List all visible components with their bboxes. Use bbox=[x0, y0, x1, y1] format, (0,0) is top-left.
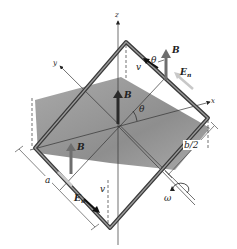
y-axis-label: y bbox=[52, 59, 58, 67]
en-label-bottom: En bbox=[73, 193, 85, 204]
b-label-center: B bbox=[123, 90, 132, 100]
theta-arc-top bbox=[158, 60, 164, 62]
dimension-b-half-label: b/2 bbox=[184, 140, 199, 150]
rotating-loop-diagram: z x y B θ B θ v En B v bbox=[0, 0, 237, 249]
v-label-top: v bbox=[136, 62, 141, 72]
x-axis-label: x bbox=[211, 97, 215, 105]
en-label-top: En bbox=[179, 67, 191, 78]
dimension-a-label: a bbox=[45, 175, 50, 185]
b-label-bottom-left: B bbox=[76, 142, 85, 152]
theta-label-center: θ bbox=[139, 104, 145, 114]
b-label-top: B bbox=[171, 45, 180, 55]
v-label-bottom: v bbox=[100, 184, 105, 194]
omega-label: ω bbox=[164, 193, 172, 203]
z-axis-label: z bbox=[114, 11, 119, 19]
